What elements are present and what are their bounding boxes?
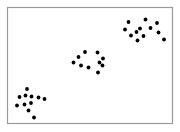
data-point	[30, 95, 34, 99]
data-point	[96, 71, 100, 75]
scatter-plot-figure	[0, 0, 180, 132]
data-point	[142, 34, 146, 38]
data-point	[87, 66, 91, 70]
data-point	[136, 39, 140, 43]
data-point	[123, 28, 127, 32]
plot-canvas	[0, 0, 180, 132]
data-point	[157, 31, 161, 35]
plot-frame-border	[8, 8, 173, 124]
data-point	[162, 38, 166, 42]
data-point	[27, 109, 31, 113]
data-point	[98, 61, 102, 65]
data-point	[37, 96, 41, 100]
data-point	[138, 27, 142, 31]
data-point	[79, 64, 83, 68]
data-point	[72, 61, 76, 65]
data-point	[77, 55, 81, 59]
data-point	[149, 26, 153, 30]
data-point	[127, 20, 131, 24]
data-point	[15, 104, 19, 108]
data-point	[24, 94, 28, 98]
data-point	[129, 34, 133, 38]
data-point	[23, 103, 27, 107]
data-point	[135, 30, 139, 34]
data-point	[18, 95, 22, 99]
data-point	[83, 50, 87, 54]
data-point	[96, 51, 100, 55]
data-point	[101, 57, 105, 61]
data-point	[32, 116, 36, 120]
data-point	[144, 18, 148, 22]
data-point	[29, 101, 33, 105]
data-point	[101, 64, 105, 68]
data-point	[25, 87, 29, 91]
data-point	[155, 21, 159, 25]
data-point	[43, 97, 47, 101]
